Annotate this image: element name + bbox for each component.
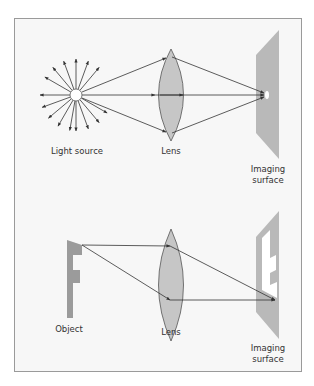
ray-lower-in (82, 98, 166, 132)
ray-upper-out (172, 57, 264, 93)
focus-rays (82, 58, 166, 132)
ray-parallel-in (82, 245, 170, 246)
ray-lower-out (172, 97, 264, 133)
label-object: Object (55, 324, 83, 334)
object-f (67, 240, 82, 318)
source-ray (42, 97, 70, 107)
source-ray (78, 61, 88, 89)
source-ray (80, 67, 99, 90)
label-lens-top: Lens (161, 146, 181, 156)
label-light-source: Light source (51, 146, 103, 156)
source-ray (78, 101, 88, 129)
ray-upper-in (82, 58, 166, 92)
top-panel: Light source Lens Imaging surface (40, 30, 285, 185)
label-imaging-surface-bottom-2: surface (252, 354, 283, 364)
label-imaging-surface-top-1: Imaging (251, 164, 286, 174)
bottom-panel: Object Lens Imaging surface (55, 211, 285, 364)
label-lens-bottom: Lens (161, 327, 181, 337)
focused-spot (265, 91, 269, 99)
label-imaging-surface-top-2: surface (252, 175, 283, 185)
optics-diagram: Light source Lens Imaging surface Object… (0, 0, 314, 386)
ray-diagonal-in (82, 245, 170, 300)
light-source (70, 89, 82, 101)
source-ray (70, 101, 75, 131)
source-ray (64, 61, 74, 89)
label-imaging-surface-bottom-1: Imaging (251, 343, 286, 353)
